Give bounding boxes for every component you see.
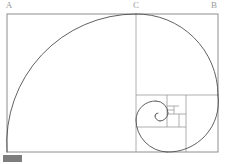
canvas-background (0, 0, 226, 164)
golden-ratio-figure: A C B (0, 0, 226, 164)
spiral-diagram-svg: A C B (0, 0, 226, 164)
watermark-badge (3, 155, 22, 162)
vertex-label-a: A (6, 0, 13, 10)
vertex-label-c: C (133, 0, 139, 10)
vertex-label-b: B (211, 0, 217, 10)
